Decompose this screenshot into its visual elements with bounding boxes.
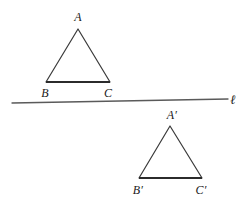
triangle-abc: [46, 29, 110, 82]
vertex-label-c: C: [104, 87, 112, 99]
vertex-label-a: A: [74, 11, 82, 23]
vertex-label-b-prime: B′: [133, 184, 143, 196]
mirror-line-label: ℓ: [230, 93, 235, 106]
triangle-a-prime-b-prime-c-prime: [139, 126, 202, 178]
figure-canvas: [0, 0, 248, 202]
vertex-label-a-prime: A′: [167, 109, 177, 121]
vertex-label-c-prime: C′: [195, 184, 206, 196]
vertex-label-b: B: [41, 87, 49, 99]
geometry-figure: A B C A′ B′ C′ ℓ: [0, 0, 248, 202]
